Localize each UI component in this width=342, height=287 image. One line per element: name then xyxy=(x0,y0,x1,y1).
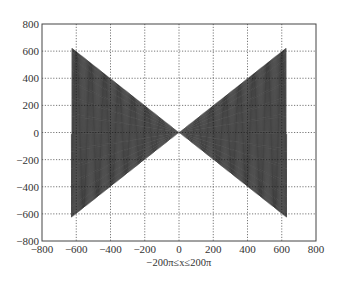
y-tick-label: 400 xyxy=(23,72,40,84)
y-tick-label: 200 xyxy=(23,99,40,111)
x-tick-label: 200 xyxy=(205,243,222,255)
y-tick-label: 600 xyxy=(23,45,40,57)
x-tick-label: −600 xyxy=(65,243,88,255)
x-axis-label: −200π≤x≤200π xyxy=(147,257,212,268)
y-tick-label: −600 xyxy=(16,208,39,220)
x-tick-label: −400 xyxy=(99,243,122,255)
x-tick-label: 600 xyxy=(274,243,291,255)
x-axis-ticks: −800−600−400−2000200400600800 xyxy=(31,243,325,255)
x-tick-label: 400 xyxy=(239,243,256,255)
y-tick-label: 800 xyxy=(23,18,40,30)
x-tick-label: −200 xyxy=(133,243,156,255)
chart: −800−600−400−2000200400600800 −800−600−4… xyxy=(0,0,342,287)
y-tick-label: −200 xyxy=(16,154,39,166)
x-tick-label: 0 xyxy=(176,243,182,255)
x-tick-label: −800 xyxy=(31,243,54,255)
x-tick-label: 800 xyxy=(308,243,325,255)
y-tick-label: 0 xyxy=(34,127,40,139)
y-tick-label: −400 xyxy=(16,181,39,193)
